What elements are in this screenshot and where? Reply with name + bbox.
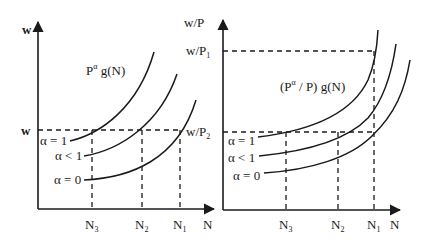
left-curve-label-alpha-0: α = 0	[54, 172, 81, 187]
left-curve-alpha-lt-1	[84, 74, 177, 156]
left-wage-level-label: w	[21, 123, 31, 138]
labor-supply-diagram: w N w α = 1 α < 1 α = 0 Pα g(N) N3 N2 N1…	[0, 0, 428, 244]
left-y-axis-label: w	[22, 22, 32, 37]
right-tick-n2: N2	[331, 217, 344, 234]
right-level-low-label: w/P2	[186, 124, 210, 141]
right-level-high-label: w/P1	[186, 43, 210, 60]
left-tick-n3: N3	[85, 217, 98, 234]
left-x-axis-label: N	[203, 217, 213, 232]
right-curve-alpha-lt-1	[259, 44, 396, 156]
left-curve-label-alpha-1: α = 1	[40, 133, 67, 148]
right-y-axis-label: w/P	[184, 15, 204, 30]
right-function-label: (Pα / P) g(N)	[280, 78, 345, 94]
right-curve-label-alpha-0: α = 0	[233, 168, 260, 183]
right-tick-n1: N1	[367, 217, 380, 234]
right-curve-alpha-0	[264, 60, 410, 173]
left-tick-n2: N2	[135, 217, 148, 234]
right-curve-label-alpha-1: α = 1	[228, 133, 255, 148]
right-panel: w/P N w/P1 w/P2 α = 1 α < 1 α = 0 (Pα / …	[184, 15, 410, 234]
right-x-axis-label: N	[390, 217, 400, 232]
right-tick-n3: N3	[279, 217, 292, 234]
left-curve-alpha-0	[84, 100, 196, 180]
left-tick-n1: N1	[173, 217, 186, 234]
left-curve-label-alpha-lt-1: α < 1	[55, 148, 82, 163]
left-function-label: Pα g(N)	[86, 62, 125, 78]
right-curve-label-alpha-lt-1: α < 1	[228, 150, 255, 165]
